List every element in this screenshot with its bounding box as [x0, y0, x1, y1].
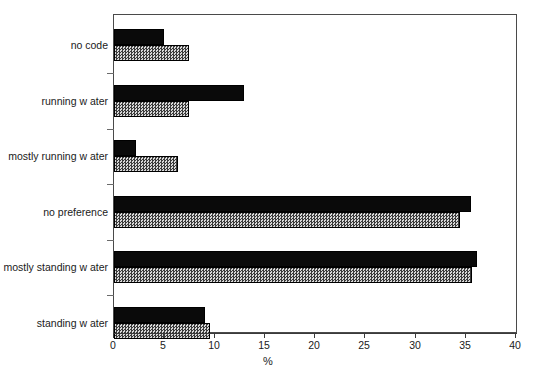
- bar-series-a-1: [114, 85, 244, 101]
- category-axis-labels: no coderunning w atermostly running w at…: [0, 14, 108, 333]
- bar-series-b-2: [114, 156, 178, 172]
- x-axis-tick-3: [264, 334, 265, 338]
- x-axis-tick-1: [163, 334, 164, 338]
- bar-series-a-0: [114, 29, 164, 45]
- bar-chart: no coderunning w atermostly running w at…: [0, 0, 536, 383]
- x-axis-tick-label-1: 5: [143, 339, 183, 351]
- x-axis-tick-2: [214, 334, 215, 338]
- y-axis-tick-3: [107, 240, 114, 241]
- category-label-4: mostly standing w ater: [2, 261, 108, 273]
- y-axis-tick-2: [107, 184, 114, 185]
- bar-series-a-4: [114, 251, 477, 267]
- category-label-0: no code: [2, 39, 108, 51]
- x-axis-tick-4: [314, 334, 315, 338]
- x-axis-tick-label-4: 20: [294, 339, 334, 351]
- x-axis-tick-label-2: 10: [194, 339, 234, 351]
- category-label-5: standing w ater: [2, 317, 108, 329]
- bar-series-b-3: [114, 212, 460, 228]
- x-axis-tick-label-7: 35: [445, 339, 485, 351]
- bar-series-b-0: [114, 45, 189, 61]
- bar-series-a-3: [114, 196, 471, 212]
- y-axis-tick-4: [107, 295, 114, 296]
- x-axis-tick-label-8: 40: [495, 339, 535, 351]
- x-axis-tick-label-6: 30: [395, 339, 435, 351]
- bar-series-b-1: [114, 101, 189, 117]
- category-label-1: running w ater: [2, 95, 108, 107]
- x-axis-tick-5: [364, 334, 365, 338]
- x-axis-tick-label-3: 15: [244, 339, 284, 351]
- x-axis-tick-8: [515, 334, 516, 338]
- x-axis-tick-label-0: 0: [93, 339, 133, 351]
- y-axis-tick-1: [107, 129, 114, 130]
- bar-series-b-4: [114, 267, 472, 283]
- category-label-2: mostly running w ater: [2, 150, 108, 162]
- x-axis-tick-7: [465, 334, 466, 338]
- x-axis-title: %: [0, 355, 536, 367]
- bar-series-a-2: [114, 140, 136, 156]
- y-axis-tick-0: [107, 73, 114, 74]
- category-label-3: no preference: [2, 206, 108, 218]
- x-axis-tick-6: [415, 334, 416, 338]
- bars-layer: [114, 15, 516, 332]
- bar-series-a-5: [114, 307, 205, 323]
- x-axis-tick-0: [113, 334, 114, 338]
- x-axis-line: [113, 333, 517, 334]
- x-axis-tick-label-5: 25: [344, 339, 384, 351]
